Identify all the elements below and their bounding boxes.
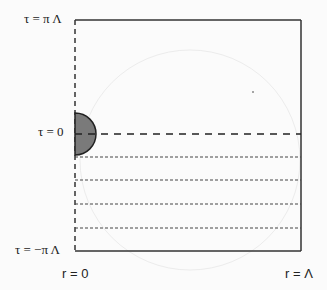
- label-tau-top: τ = π Λ: [24, 11, 62, 27]
- label-r-zero: r = 0: [62, 266, 88, 281]
- faint-arc: [80, 50, 300, 270]
- label-tau-bottom: τ = −π Λ: [15, 242, 60, 258]
- label-tau-zero: τ = 0: [38, 124, 64, 140]
- speck: [252, 91, 254, 93]
- label-r-lambda: r = Λ: [285, 266, 313, 281]
